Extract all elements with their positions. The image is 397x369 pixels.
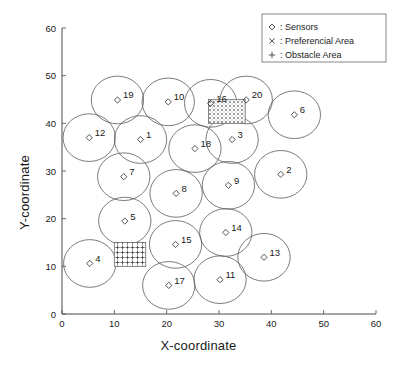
y-axis-title: Y-coordinate xyxy=(17,155,32,230)
y-tick-label: 0 xyxy=(51,309,56,320)
sensor-label: 19 xyxy=(123,89,134,100)
sensor-label: 6 xyxy=(300,104,305,115)
y-tick-label: 40 xyxy=(45,118,56,129)
sensor-label: 8 xyxy=(182,183,187,194)
obstacle-area xyxy=(114,243,145,267)
sensor-label: 4 xyxy=(95,253,100,264)
sensor-label: 11 xyxy=(226,269,236,280)
sensor-label: 2 xyxy=(286,164,291,175)
x-tick-label: 30 xyxy=(214,318,225,329)
x-tick-label: 0 xyxy=(59,318,64,329)
sensor-label: 17 xyxy=(174,275,185,286)
x-tick-label: 50 xyxy=(318,318,329,329)
y-tick-label: 50 xyxy=(45,70,56,81)
sensor-label: 7 xyxy=(129,166,134,177)
y-tick-label: 30 xyxy=(45,166,56,177)
sensor-label: 5 xyxy=(130,211,135,222)
x-tick-label: 10 xyxy=(109,318,120,329)
x-tick-label: 40 xyxy=(266,318,277,329)
legend-label: : Obstacle Area xyxy=(280,50,342,60)
y-tick-label: 60 xyxy=(45,23,56,34)
legend-label: : Preferencial Area xyxy=(280,36,354,46)
y-tick-label: 20 xyxy=(45,213,56,224)
sensor-label: 3 xyxy=(238,129,243,140)
legend-label: : Sensors xyxy=(280,22,319,32)
x-tick-label: 60 xyxy=(371,318,382,329)
sensor-label: 13 xyxy=(270,247,281,258)
sensor-label: 16 xyxy=(216,93,227,104)
sensor-label: 15 xyxy=(181,234,192,245)
sensor-label: 20 xyxy=(252,89,263,100)
x-axis-title: X-coordinate xyxy=(0,338,397,353)
sensor-label: 18 xyxy=(200,138,211,149)
legend: : Sensors: Preferencial Area: Obstacle A… xyxy=(262,14,386,62)
y-tick-label: 10 xyxy=(45,261,56,272)
sensor-label: 1 xyxy=(146,129,151,140)
sensor-label: 10 xyxy=(174,91,185,102)
x-tick-label: 20 xyxy=(161,318,172,329)
sensor-label: 9 xyxy=(234,175,239,186)
sensor-coverage-figure: 1234567891011121314151617181920 01020304… xyxy=(0,0,397,369)
sensor-label: 12 xyxy=(95,127,106,138)
plot-canvas: 1234567891011121314151617181920 01020304… xyxy=(0,0,397,369)
sensor-label: 14 xyxy=(231,222,242,233)
